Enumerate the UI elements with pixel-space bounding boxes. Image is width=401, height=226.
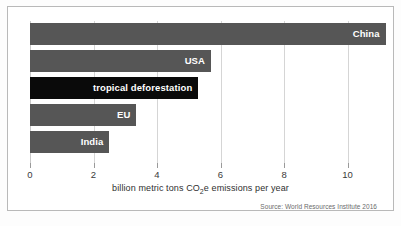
tick-label-10: 10 [342,169,353,180]
x-axis: 0246810 [30,163,392,179]
bar-india[interactable]: India [30,131,109,153]
bar-row: EU [30,104,392,126]
tick-label-0: 0 [27,169,32,180]
bar-row: USA [30,50,392,72]
source-attribution: Source: World Resources Institute 2016 [260,203,377,210]
tick-mark-6 [221,163,222,168]
plot-area: ChinaUSAtropical deforestationEUIndia [30,21,392,163]
bar-label: USA [185,56,205,66]
bar-tropical-deforestation[interactable]: tropical deforestation [30,77,198,99]
bar-usa[interactable]: USA [30,50,211,72]
tick-mark-4 [157,163,158,168]
chart-frame: ChinaUSAtropical deforestationEUIndia 02… [7,6,394,211]
tick-label-6: 6 [218,169,223,180]
bar-label: India [81,137,104,147]
x-axis-label-prefix: billion metric tons CO [112,183,200,193]
bar-label: China [353,29,380,39]
bar-china[interactable]: China [30,23,386,45]
x-axis-label: billion metric tons CO2e emissions per y… [8,183,393,195]
bar-label: tropical deforestation [93,83,192,93]
tick-mark-2 [94,163,95,168]
bar-eu[interactable]: EU [30,104,136,126]
x-axis-label-suffix: e emissions per year [204,183,289,193]
bar-row: India [30,131,392,153]
bar-series: ChinaUSAtropical deforestationEUIndia [30,21,392,163]
chart-figure: ChinaUSAtropical deforestationEUIndia 02… [0,0,401,226]
tick-mark-8 [284,163,285,168]
bar-row: tropical deforestation [30,77,392,99]
tick-mark-0 [30,163,31,168]
tick-label-8: 8 [281,169,286,180]
tick-mark-10 [348,163,349,168]
tick-label-2: 2 [91,169,96,180]
bar-row: China [30,23,392,45]
bar-label: EU [117,110,130,120]
tick-label-4: 4 [154,169,159,180]
